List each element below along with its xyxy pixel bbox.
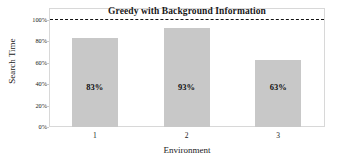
bar: 63% [255, 60, 301, 127]
plot-area: 83%93%63% [49, 20, 324, 127]
y-tick-label: 0% [3, 123, 47, 130]
chart-title: Greedy with Background Information [49, 6, 325, 16]
x-tick-label: 3 [248, 131, 308, 140]
bar-value-label: 93% [164, 82, 210, 92]
y-tick-label: 100% [3, 16, 47, 23]
y-axis-title: Search Time [7, 28, 17, 94]
bar-chart-figure: Greedy with Background Information 0%20%… [0, 0, 340, 163]
bar-value-label: 63% [255, 82, 301, 92]
bar-value-label: 83% [72, 82, 118, 92]
reference-line-100-percent [50, 19, 324, 20]
bar: 93% [164, 28, 210, 128]
x-axis-title: Environment [49, 145, 325, 155]
bar: 83% [72, 38, 118, 127]
y-tick-mark [45, 127, 49, 128]
y-tick-label: 20% [3, 102, 47, 109]
x-tick-label: 2 [157, 131, 217, 140]
x-tick-label: 1 [65, 131, 125, 140]
